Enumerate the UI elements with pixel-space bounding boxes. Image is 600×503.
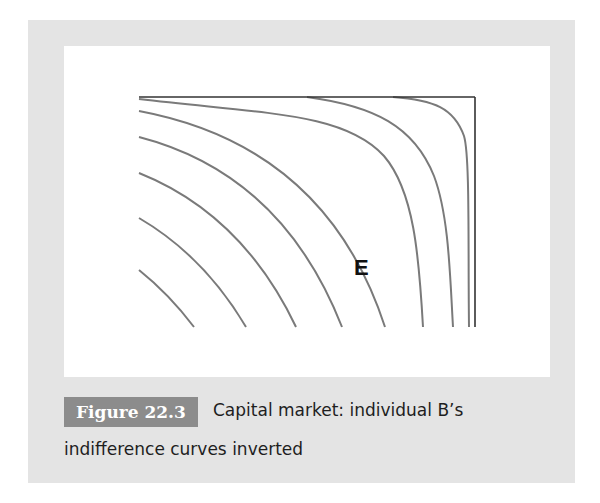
indifference-curve-7 — [307, 97, 453, 327]
indifference-curve-8 — [393, 97, 469, 327]
indifference-curve-5 — [139, 111, 385, 327]
indifference-curve-chart: E — [64, 46, 550, 377]
indifference-curve-3 — [139, 173, 296, 327]
indifference-curve-1 — [139, 270, 194, 327]
indifference-curve-6 — [139, 99, 423, 327]
caption-text-line-1: Capital market: individual B’s — [213, 400, 463, 420]
indifference-curves — [139, 97, 469, 327]
axes — [139, 97, 475, 327]
equilibrium-point-label: E — [354, 255, 369, 280]
caption-text-line-2: indifference curves inverted — [64, 439, 303, 459]
figure-number-badge: Figure 22.3 — [64, 397, 198, 427]
plot-panel: E — [64, 46, 550, 377]
figure-container: E Figure 22.3 Capital market: individual… — [28, 20, 575, 483]
indifference-curve-2 — [139, 218, 246, 327]
